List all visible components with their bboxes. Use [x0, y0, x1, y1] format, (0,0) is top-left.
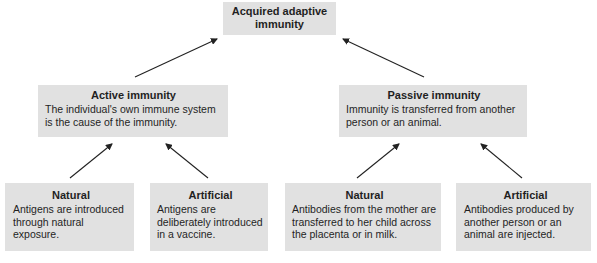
- active-immunity-title: Active immunity: [45, 89, 222, 102]
- active-immunity-box: Active immunity The individual's own imm…: [38, 85, 228, 137]
- root-title-line2: immunity: [223, 18, 336, 31]
- active-natural-description: Antigens are introduced through natural …: [13, 203, 129, 241]
- passive-artificial-box: Artificial Antibodies produced by anothe…: [456, 183, 591, 251]
- arrow-active-natural-to-active: [70, 144, 112, 178]
- arrow-active-artificial-to-active: [166, 144, 208, 178]
- arrow-passive-natural-to-passive: [357, 144, 399, 178]
- active-natural-box: Natural Antigens are introduced through …: [5, 183, 134, 251]
- passive-immunity-title: Passive immunity: [346, 89, 522, 102]
- passive-natural-description: Antibodies from the mother are transferr…: [292, 203, 437, 241]
- passive-natural-title: Natural: [292, 189, 437, 202]
- root-title-line1: Acquired adaptive: [223, 5, 336, 18]
- active-natural-title: Natural: [13, 189, 129, 202]
- passive-natural-box: Natural Antibodies from the mother are t…: [285, 183, 441, 251]
- active-artificial-description: Antigens are deliberately introduced in …: [157, 203, 264, 241]
- arrow-passive-to-root: [343, 39, 424, 77]
- arrow-active-to-root: [135, 39, 217, 77]
- active-immunity-description: The individual's own immune system is th…: [45, 103, 222, 128]
- passive-artificial-title: Artificial: [464, 189, 587, 202]
- passive-artificial-description: Antibodies produced by another person or…: [464, 203, 587, 241]
- active-artificial-title: Artificial: [157, 189, 264, 202]
- passive-immunity-box: Passive immunity Immunity is transferred…: [339, 85, 527, 137]
- root-box: Acquired adaptive immunity: [223, 2, 336, 35]
- arrow-passive-artificial-to-passive: [481, 144, 522, 178]
- passive-immunity-description: Immunity is transferred from another per…: [346, 103, 522, 128]
- active-artificial-box: Artificial Antigens are deliberately int…: [150, 183, 268, 251]
